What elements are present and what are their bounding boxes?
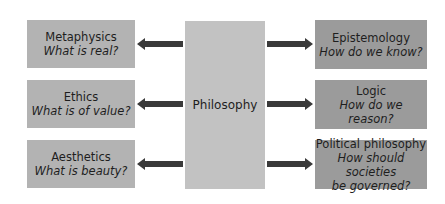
arrow-left-icon <box>137 98 183 110</box>
box-title: Ethics <box>64 90 99 104</box>
arrow-right-icon <box>267 38 313 50</box>
box-title: Metaphysics <box>45 30 116 44</box>
logic-box: Logic How do we reason? <box>315 80 427 129</box>
arrow-left-icon <box>137 38 183 50</box>
arrow-right-icon <box>267 158 313 170</box>
box-question: What is beauty? <box>35 164 128 178</box>
center-label: Philosophy <box>193 98 258 112</box>
philosophy-center-box: Philosophy <box>185 21 265 189</box>
box-title: Epistemology <box>332 31 410 45</box>
box-question: How do we know? <box>319 45 422 59</box>
ethics-box: Ethics What is of value? <box>27 80 135 128</box>
metaphysics-box: Metaphysics What is real? <box>27 20 135 68</box>
epistemology-box: Epistemology How do we know? <box>315 20 427 69</box>
box-question: What is real? <box>44 44 119 58</box>
box-title: Aesthetics <box>51 150 111 164</box>
box-question: be governed? <box>332 179 411 193</box>
arrow-right-icon <box>267 98 313 110</box>
box-question: What is of value? <box>32 104 131 118</box>
arrow-left-icon <box>137 158 183 170</box>
box-title: Political philosophy <box>316 137 426 151</box>
box-title: Logic <box>356 84 386 98</box>
box-question: How do we reason? <box>315 98 427 126</box>
political-philosophy-box: Political philosophy How should societie… <box>315 140 427 189</box>
aesthetics-box: Aesthetics What is beauty? <box>27 140 135 188</box>
box-question: How should societies <box>315 151 427 179</box>
